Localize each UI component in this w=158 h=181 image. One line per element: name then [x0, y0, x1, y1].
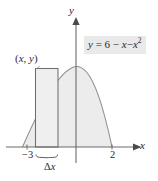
equation-lhs: y: [88, 38, 93, 50]
equation-exponent: 2: [138, 36, 142, 45]
delta-variable: x: [51, 161, 56, 172]
point-comma: ,: [24, 52, 27, 64]
equation-constant: 6: [105, 38, 111, 50]
representative-rectangle: [36, 69, 59, 148]
delta-symbol: Δ: [44, 161, 51, 172]
x-tick-label-two: 2: [110, 150, 115, 161]
equation-annotation: y = 6 − x−x2: [84, 36, 146, 54]
y-axis-label: y: [69, 5, 74, 16]
delta-x-label: Δx: [44, 162, 55, 173]
delta-x-brace: [36, 155, 58, 158]
figure-container: y = 6 − x−x2 (x, y) x y −3 2 Δx: [0, 0, 158, 181]
equation-minus-one: −: [113, 38, 119, 50]
equation-equals: =: [96, 38, 102, 50]
x-tick-label-minus-three: −3: [22, 150, 33, 161]
x-axis-label: x: [140, 140, 145, 151]
point-paren-close: ): [34, 52, 38, 64]
point-coordinate-label: (x, y): [15, 53, 38, 64]
y-axis-arrow: [72, 17, 79, 25]
